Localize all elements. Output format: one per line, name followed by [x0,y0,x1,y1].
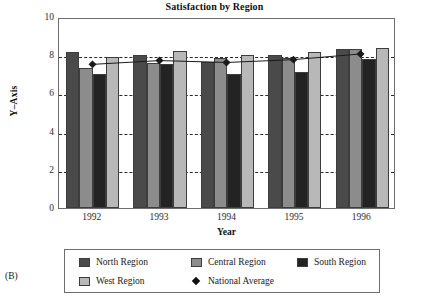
bar[interactable] [173,51,186,208]
bar[interactable] [268,55,281,208]
bar[interactable] [93,74,106,208]
legend-item[interactable]: Central Region [191,252,266,272]
figure-panel: Satisfaction by Region Y–Axis 0246810 Na… [0,0,429,306]
x-axis-title: Year [58,227,395,237]
y-tick-label: 0 [34,203,54,213]
legend-item[interactable]: West Region [79,271,145,291]
bars-layer [59,19,394,208]
y-axis-ticks: 0246810 [30,18,54,209]
chart-title: Satisfaction by Region [0,1,429,12]
legend-diamond-icon [191,277,202,286]
plot-area: National Average 1992: 7.6National Avera… [58,18,395,209]
bar[interactable] [336,49,349,208]
y-axis-title: Y–Axis [9,66,19,136]
y-tick-label: 6 [34,88,54,98]
legend-label: South Region [314,257,366,267]
bar[interactable] [133,55,146,208]
x-tick-label: 1993 [125,212,192,222]
bar[interactable] [227,74,240,208]
bar[interactable] [362,59,375,208]
bar-group [329,19,395,208]
legend-swatch-icon [79,277,90,286]
legend-swatch-icon [191,258,202,267]
bar[interactable] [106,57,119,208]
legend-swatch-icon [297,258,308,267]
bar[interactable] [66,52,79,208]
bar[interactable] [376,48,389,208]
legend-label: Central Region [208,257,266,267]
legend-label: North Region [96,257,148,267]
legend-item[interactable]: North Region [79,252,148,272]
legend-item[interactable]: National Average [191,271,274,291]
legend-label: National Average [208,276,274,286]
x-tick-label: 1994 [193,212,260,222]
bar-group [261,19,328,208]
y-tick-label: 10 [34,12,54,22]
bar[interactable] [79,68,92,208]
legend-item[interactable]: South Region [297,252,366,272]
chart-legend: North RegionCentral RegionSouth Region W… [64,249,380,293]
bar[interactable] [241,55,254,208]
x-axis-ticks: 19921993199419951996 [58,212,395,226]
bar-group [59,19,126,208]
y-tick-label: 4 [34,127,54,137]
legend-row-1: North RegionCentral RegionSouth Region [65,252,379,272]
bar[interactable] [214,58,227,208]
bar-group [126,19,193,208]
bar[interactable] [349,49,362,208]
x-tick-label: 1992 [58,212,125,222]
bar[interactable] [282,58,295,208]
bar[interactable] [295,72,308,208]
panel-label: (B) [5,271,18,281]
x-tick-label: 1995 [260,212,327,222]
bar-group [194,19,261,208]
y-tick-label: 2 [34,165,54,175]
bar[interactable] [308,52,321,208]
y-tick-label: 8 [34,50,54,60]
legend-row-2: West RegionNational Average [65,271,379,291]
bar[interactable] [160,64,173,208]
bar[interactable] [147,63,160,208]
bar[interactable] [201,62,214,208]
legend-label: West Region [96,276,145,286]
legend-swatch-icon [79,258,90,267]
x-tick-label: 1996 [328,212,395,222]
